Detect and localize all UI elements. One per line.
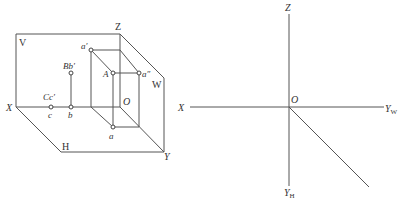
projection-figure: V H W X Z Y O a′ A a″ a Bb′ b Cc′ c Z X … [0, 0, 402, 205]
z-axis-label: Z [115, 21, 121, 32]
A-label: A [102, 69, 109, 79]
w-plane-label: W [152, 79, 162, 90]
y-axis-label: Y [164, 151, 171, 162]
y-axis-line [120, 107, 164, 152]
a-label: a [109, 131, 114, 141]
point-A [111, 71, 115, 75]
Cc-prime-label: Cc′ [43, 92, 56, 102]
v-plane-label: V [19, 37, 27, 48]
left-diagram-three-planes: V H W X Z Y O a′ A a″ a Bb′ b Cc′ c [5, 21, 171, 162]
point-a [111, 125, 115, 129]
point-b [69, 105, 73, 109]
a-prime-to-A-line [91, 50, 113, 73]
h-plane-left-edge [16, 107, 61, 152]
origin-label: O [123, 96, 130, 107]
point-Bb-prime [69, 71, 73, 75]
point-a-prime [89, 48, 93, 52]
right-origin-label: O [291, 94, 298, 105]
b-label: b [68, 110, 73, 120]
point-a-double-prime [137, 71, 141, 75]
point-c [49, 105, 53, 109]
a-double-prime-label: a″ [142, 69, 151, 79]
z-to-a-double-prime-line [120, 50, 139, 73]
c-label: c [48, 110, 52, 120]
right-z-label: Z [285, 2, 291, 13]
right-yw-label: YW [385, 103, 398, 116]
right-diagram-unfolded-axes: Z X O YW YH [177, 2, 398, 200]
figure-canvas: V H W X Z Y O a′ A a″ a Bb′ b Cc′ c Z X … [0, 0, 402, 205]
h-plane-label: H [62, 141, 69, 152]
right-yh-label: YH [284, 187, 295, 200]
x-to-a-line [91, 107, 113, 127]
Bb-prime-label: Bb′ [63, 61, 76, 71]
x-axis-label: X [5, 102, 13, 113]
diagonal-45-line [289, 107, 369, 187]
right-x-label: X [177, 102, 185, 113]
a-prime-label: a′ [81, 41, 89, 51]
